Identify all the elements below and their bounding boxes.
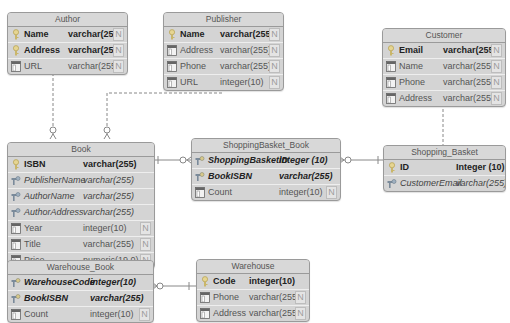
field-row[interactable]: CustomerEmailvarchar(255) xyxy=(384,175,505,191)
field-name: Address xyxy=(213,306,246,321)
field-row[interactable]: AuthorAddressvarchar(255) xyxy=(8,204,154,220)
field-type: integer(10) xyxy=(90,275,136,290)
field-type: integer(10) xyxy=(90,307,134,322)
field-name: AuthorAddress xyxy=(24,205,84,220)
column-icon xyxy=(386,77,396,88)
field-type: varchar(255) xyxy=(443,91,494,106)
entity-author[interactable]: Author Namevarchar(255)NAddressvarchar(2… xyxy=(7,12,128,75)
primary-key-icon xyxy=(11,45,21,56)
field-name: PublisherName xyxy=(24,173,86,188)
field-row[interactable]: WarehouseCodeinteger(10) xyxy=(8,275,153,290)
field-row[interactable]: IDInteger (10) xyxy=(384,160,505,175)
field-name: ID xyxy=(400,160,409,175)
nullable-flag: N xyxy=(113,28,124,41)
field-type: Integer (10) xyxy=(456,160,505,175)
field-row[interactable]: Namevarchar(255)N xyxy=(164,27,283,42)
entity-customer[interactable]: Customer Emailvarchar(255)NNamevarchar(2… xyxy=(382,28,506,107)
field-row[interactable]: AuthorNamevarchar(255) xyxy=(8,188,154,204)
field-type: varchar(255) xyxy=(443,75,494,90)
field-type: varchar(255) xyxy=(83,157,137,172)
field-name: Phone xyxy=(399,75,425,90)
primary-foreign-key-icon xyxy=(11,293,21,304)
field-name: AuthorName xyxy=(24,189,75,204)
foreign-key-icon xyxy=(11,207,21,218)
field-row[interactable]: Addressvarchar(255)N xyxy=(8,42,127,58)
field-row[interactable]: BookISBNvarchar(255) xyxy=(192,168,340,184)
field-row[interactable]: Namevarchar(255)N xyxy=(383,58,505,74)
column-icon xyxy=(386,93,396,104)
nullable-flag: N xyxy=(140,238,151,251)
field-type: integer(10) xyxy=(83,221,127,236)
field-row[interactable]: Phonevarchar(255)N xyxy=(164,58,283,74)
field-row[interactable]: URLinteger(10)N xyxy=(164,74,283,90)
field-name: Email xyxy=(399,43,423,58)
field-row[interactable]: Phonevarchar(255)N xyxy=(383,74,505,90)
column-icon xyxy=(167,61,177,72)
field-row[interactable]: PublisherNamevarchar(255) xyxy=(8,172,154,188)
nullable-flag: N xyxy=(269,60,280,73)
foreign-key-icon xyxy=(11,191,21,202)
field-type: integer(10) xyxy=(249,274,295,289)
entity-shopping-basket[interactable]: Shopping_Basket IDInteger (10)CustomerEm… xyxy=(383,145,506,192)
field-type: varchar(255) xyxy=(90,291,144,306)
field-row[interactable]: Addressvarchar(255)N xyxy=(197,305,309,321)
field-row[interactable]: Addressvarchar(255)N xyxy=(383,90,505,106)
field-name: Name xyxy=(180,27,205,42)
entity-title: Warehouse xyxy=(197,260,309,274)
foreign-key-icon xyxy=(11,175,21,186)
field-name: CustomerEmail xyxy=(400,176,462,191)
column-icon xyxy=(200,292,210,303)
column-icon xyxy=(11,239,21,250)
field-type: varchar(255) xyxy=(443,59,494,74)
entity-title: Book xyxy=(8,143,154,157)
entity-title: Customer xyxy=(383,29,505,43)
field-type: varchar(255) xyxy=(220,59,271,74)
primary-key-icon xyxy=(11,29,21,40)
entity-title: ShoppingBasket_Book xyxy=(192,139,340,153)
entity-title: Shopping_Basket xyxy=(384,146,505,160)
column-icon xyxy=(386,61,396,72)
nullable-flag: N xyxy=(269,76,280,89)
nullable-flag: N xyxy=(491,76,502,89)
field-type: integer (10) xyxy=(279,153,328,168)
column-icon xyxy=(11,61,21,72)
field-name: Code xyxy=(213,274,236,289)
field-type: varchar(255) xyxy=(68,59,119,74)
column-icon xyxy=(11,223,21,234)
nullable-flag: N xyxy=(295,291,306,304)
field-row[interactable]: Addressvarchar(255)N xyxy=(164,42,283,58)
primary-key-icon xyxy=(386,45,396,56)
field-row[interactable]: Countinteger(10)N xyxy=(8,306,153,322)
field-type: varchar(255) xyxy=(249,306,300,321)
column-icon xyxy=(200,308,210,319)
primary-foreign-key-icon xyxy=(195,171,205,182)
field-type: varchar(255) xyxy=(220,43,271,58)
nullable-flag: N xyxy=(269,44,280,57)
field-type: varchar(255) xyxy=(279,169,333,184)
field-row[interactable]: URLvarchar(255)N xyxy=(8,58,127,74)
field-name: Year xyxy=(24,221,42,236)
field-row[interactable]: Countinteger(10)N xyxy=(192,184,340,200)
entity-warehouse[interactable]: Warehouse Codeinteger(10)Phonevarchar(25… xyxy=(196,259,310,322)
nullable-flag: N xyxy=(140,222,151,235)
field-row[interactable]: Codeinteger(10) xyxy=(197,274,309,289)
field-row[interactable]: ISBNvarchar(255) xyxy=(8,157,154,172)
entity-book[interactable]: Book ISBNvarchar(255)PublisherNamevarcha… xyxy=(7,142,155,269)
field-name: Title xyxy=(24,237,41,252)
field-row[interactable]: Titlevarchar(255)N xyxy=(8,236,154,252)
field-row[interactable]: BookISBNvarchar(255) xyxy=(8,290,153,306)
field-row[interactable]: Namevarchar(255)N xyxy=(8,27,127,42)
field-name: Address xyxy=(180,43,213,58)
field-row[interactable]: ShoppingBasketIDinteger (10) xyxy=(192,153,340,168)
entity-shoppingbasket-book[interactable]: ShoppingBasket_Book ShoppingBasketIDinte… xyxy=(191,138,341,201)
field-row[interactable]: Phonevarchar(255)N xyxy=(197,289,309,305)
entity-warehouse-book[interactable]: Warehouse_Book WarehouseCodeinteger(10)B… xyxy=(7,260,154,323)
field-row[interactable]: Emailvarchar(255)N xyxy=(383,43,505,58)
nullable-flag: N xyxy=(139,308,150,321)
entity-publisher[interactable]: Publisher Namevarchar(255)NAddressvarcha… xyxy=(163,12,284,91)
field-row[interactable]: Yearinteger(10)N xyxy=(8,220,154,236)
field-name: BookISBN xyxy=(208,169,252,184)
field-type: varchar(255) xyxy=(83,173,134,188)
field-type: varchar(255) xyxy=(249,290,300,305)
nullable-flag: N xyxy=(491,60,502,73)
